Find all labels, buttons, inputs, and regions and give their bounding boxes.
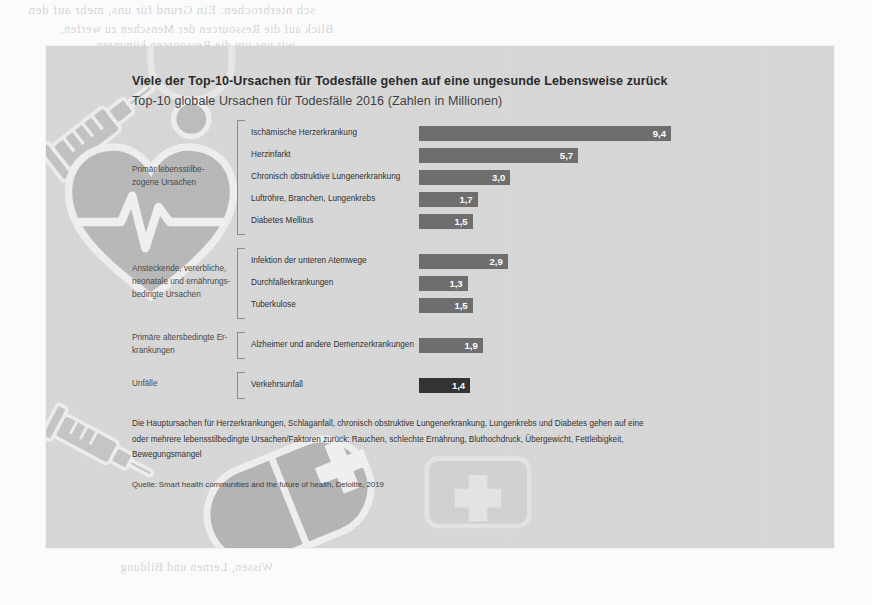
group-label: Primär lebensstilbe-zogene Ursachen	[132, 163, 250, 189]
bar-label: Alzheimer und andere Demenzerkrankungen	[251, 340, 414, 349]
group-label-line: neonatale und ernährungs-	[132, 275, 250, 288]
group-label-line: bedingte Ursachen	[132, 288, 250, 301]
bar-value: 9,4	[653, 127, 666, 140]
bar: 1,3	[419, 276, 468, 291]
group-label-line: Primär lebensstilbe-	[132, 163, 250, 176]
bleed-through-text: Blick auf die Ressourcen der Menschen zu…	[60, 22, 333, 37]
group-label-line: Primäre altersbedingte Er-	[132, 331, 250, 344]
bar-value: 1,7	[459, 193, 472, 206]
bar-value: 2,9	[490, 255, 503, 268]
bar: 1,4	[419, 378, 470, 393]
bar-label: Chronisch obstruktive Lungenerkrankung	[251, 172, 400, 181]
group-label-line: Ansteckende, vererbliche,	[132, 262, 250, 275]
bar-label: Tuberkulose	[251, 300, 296, 309]
bleed-through-text: Wissen, Lernen und Bildung	[120, 560, 273, 575]
bar-label: Luftröhre, Branchen, Lungenkrebs	[251, 194, 375, 203]
bar-label: Diabetes Mellitus	[251, 216, 313, 225]
bar-value: 1,9	[464, 339, 477, 352]
bar: 1,7	[419, 192, 478, 207]
group-label-line: zogene Ursachen	[132, 176, 250, 189]
bar: 1,5	[419, 298, 473, 313]
bleed-through-text: sch nterbrochen. Ein Grund für uns, mehr…	[28, 2, 315, 18]
bar-label: Durchfallerkrankungen	[251, 278, 333, 287]
presentation-slide: Viele der Top-10-Ursachen für Todesfälle…	[46, 46, 834, 548]
chart-source: Quelle: Smart health communities and the…	[132, 480, 384, 489]
bar-label: Verkehrsunfall	[251, 380, 303, 389]
group-label: Unfälle	[132, 377, 250, 390]
bar: 2,9	[419, 254, 508, 269]
group-label-line: krankungen	[132, 344, 250, 357]
bar-label: Herzinfarkt	[251, 150, 291, 159]
group-label-line: Unfälle	[132, 377, 250, 390]
bar-value: 1,5	[454, 215, 467, 228]
bar: 3,0	[419, 170, 510, 185]
slide-subtitle: Top-10 globale Ursachen für Todesfälle 2…	[132, 94, 502, 108]
group-label: Primäre altersbedingte Er-krankungen	[132, 331, 250, 357]
bar-value: 1,3	[449, 277, 462, 290]
group-label: Ansteckende, vererbliche,neonatale und e…	[132, 262, 250, 301]
bar-label: Ischämische Herzerkrankung	[251, 128, 357, 137]
chart-footnote: Die Hauptursachen für Herzerkrankungen, …	[132, 416, 662, 463]
bar-value: 1,5	[454, 299, 467, 312]
bar: 9,4	[419, 126, 671, 141]
scanned-page: sch nterbrochen. Ein Grund für uns, mehr…	[0, 0, 872, 605]
bar: 5,7	[419, 148, 578, 163]
bar: 1,5	[419, 214, 473, 229]
bar: 1,9	[419, 338, 483, 353]
bar-value: 3,0	[492, 171, 505, 184]
bar-value: 5,7	[560, 149, 573, 162]
bar-value: 1,4	[452, 379, 465, 392]
bar-label: Infektion der unteren Atemwege	[251, 256, 367, 265]
slide-title: Viele der Top-10-Ursachen für Todesfälle…	[132, 74, 668, 88]
